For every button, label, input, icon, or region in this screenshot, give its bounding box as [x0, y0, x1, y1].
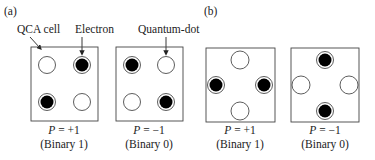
electron [160, 96, 173, 109]
polarization-label: P = −1 [132, 124, 165, 136]
annotation-qca-cell: QCA cell [17, 23, 60, 35]
empty-dot [39, 57, 56, 74]
qca-cell-b-p-plus [206, 48, 275, 122]
electron [319, 105, 332, 118]
qca-cell-b-p-minus [291, 48, 359, 122]
arrow-qca-cell [30, 37, 40, 48]
binary-label: (Binary 1) [216, 138, 264, 151]
empty-dot [124, 94, 141, 111]
empty-dot [74, 94, 91, 111]
binary-label: (Binary 1) [40, 138, 88, 151]
empty-dot [340, 76, 358, 94]
polarization-label: P = +1 [223, 124, 256, 136]
electron [319, 54, 332, 67]
binary-label: (Binary 0) [301, 138, 349, 151]
empty-dot [231, 51, 249, 69]
electron [210, 79, 223, 92]
polarization-label: P = +1 [47, 124, 80, 136]
electron [76, 59, 89, 72]
panel-label-b: (b) [204, 5, 218, 18]
qca-diagram: (a) (b) QCA cell Electron Quantum-dot [0, 0, 375, 160]
binary-label: (Binary 0) [125, 138, 173, 151]
qca-cell-a-p-plus [31, 47, 98, 121]
electron [41, 96, 54, 109]
annotation-electron: Electron [75, 23, 114, 35]
polarization-label: P = −1 [308, 124, 341, 136]
empty-dot [231, 102, 249, 120]
electron [258, 79, 271, 92]
empty-dot [292, 76, 310, 94]
qca-cell-a-p-minus [116, 47, 183, 121]
panel-label-a: (a) [4, 5, 17, 18]
electron [126, 59, 139, 72]
empty-dot [158, 57, 175, 74]
annotation-quantum-dot: Quantum-dot [138, 23, 200, 35]
